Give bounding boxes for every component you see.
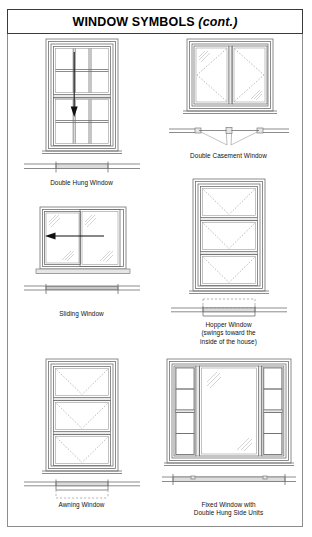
window-symbols-page: WINDOW SYMBOLS (cont.) bbox=[0, 0, 312, 537]
symbols-grid: Double Hung Window bbox=[8, 35, 302, 526]
figure-fixed-window-double-hung-side-units: Fixed Window with Double Hung Side Units bbox=[155, 355, 302, 526]
caption-line-1: Fixed Window with bbox=[155, 501, 302, 509]
caption-line-1: Double Hung Window bbox=[50, 179, 113, 186]
caption-line-2: (swings toward the bbox=[155, 329, 302, 337]
fixed-window-double-hung-side-units-drawing bbox=[159, 355, 299, 500]
caption-line-1: Awning Window bbox=[59, 501, 105, 508]
figure-double-hung-window: Double Hung Window bbox=[8, 35, 155, 203]
page-title-main: WINDOW SYMBOLS bbox=[72, 15, 194, 29]
page-title-continued: (cont.) bbox=[198, 15, 237, 29]
awning-window-drawing bbox=[16, 355, 148, 500]
page-title-box: WINDOW SYMBOLS (cont.) bbox=[7, 9, 303, 34]
figure-sliding-window: Sliding Window bbox=[8, 203, 155, 355]
double-casement-window-drawing bbox=[163, 35, 295, 151]
caption-line-2: Double Hung Side Units bbox=[155, 509, 302, 517]
caption-line-1: Hopper Window bbox=[155, 321, 302, 329]
awning-window-caption: Awning Window bbox=[8, 501, 155, 509]
double-casement-window-caption: Double Casement Window bbox=[155, 152, 302, 160]
fixed-window-double-hung-side-units-caption: Fixed Window with Double Hung Side Units bbox=[155, 501, 302, 518]
sliding-window-drawing bbox=[16, 203, 148, 309]
hopper-window-caption: Hopper Window (swings toward the inside … bbox=[155, 321, 302, 346]
caption-line-3: inside of the house) bbox=[155, 338, 302, 346]
double-hung-window-caption: Double Hung Window bbox=[8, 179, 155, 187]
hopper-window-drawing bbox=[163, 175, 295, 320]
figure-double-casement-window: Double Casement Window bbox=[155, 35, 302, 175]
caption-line-1: Sliding Window bbox=[59, 310, 103, 317]
caption-line-1: Double Casement Window bbox=[190, 152, 267, 159]
figure-hopper-window: Hopper Window (swings toward the inside … bbox=[155, 175, 302, 355]
double-hung-window-drawing bbox=[16, 35, 148, 178]
page-title: WINDOW SYMBOLS (cont.) bbox=[72, 15, 237, 29]
sliding-window-caption: Sliding Window bbox=[8, 310, 155, 318]
figure-awning-window: Awning Window bbox=[8, 355, 155, 526]
